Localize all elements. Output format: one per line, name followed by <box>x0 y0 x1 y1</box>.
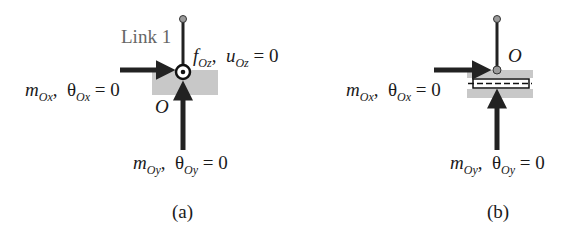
angle-subscript: Ox <box>397 90 411 104</box>
ground-band-bottom <box>467 89 533 98</box>
angle-subscript: Oy <box>501 163 515 177</box>
angle-subscript: Oy <box>184 163 198 177</box>
equals-zero: = 0 <box>203 152 228 173</box>
origin-text: O <box>508 45 522 66</box>
equals-zero: = 0 <box>95 79 120 100</box>
displacement-subscript: Oz <box>235 56 248 70</box>
separator: , <box>161 152 166 173</box>
moment-x-label: mOx, θOx = 0 <box>25 80 120 103</box>
link-1-label: Link 1 <box>121 27 171 46</box>
angle-subscript: Ox <box>76 90 90 104</box>
angle-symbol: θ <box>67 79 76 100</box>
caption-b-text: (b) <box>487 201 509 222</box>
moment-symbol: m <box>346 79 360 100</box>
moment-y-label: mOy, θOy = 0 <box>133 153 228 176</box>
angle-symbol: θ <box>388 79 397 100</box>
moment-y-label: mOy, θOy = 0 <box>450 153 545 176</box>
moment-x-label: mOx, θOx = 0 <box>346 80 441 103</box>
force-subscript: Oz <box>198 56 211 70</box>
moment-symbol: m <box>450 152 464 173</box>
link-end-joint-icon <box>494 16 501 23</box>
separator: , <box>53 79 58 100</box>
caption-b: (b) <box>487 202 509 221</box>
displacement-symbol: u <box>226 45 236 66</box>
force-z-label: fOz, uOz = 0 <box>193 46 278 69</box>
origin-label: O <box>155 97 169 116</box>
separator: , <box>478 152 483 173</box>
moment-symbol: m <box>133 152 147 173</box>
caption-a: (a) <box>172 202 193 221</box>
moment-subscript: Ox <box>39 90 53 104</box>
link-end-joint-icon <box>180 16 187 23</box>
angle-symbol: θ <box>492 152 501 173</box>
origin-text: O <box>155 96 169 117</box>
equals-zero: = 0 <box>416 79 441 100</box>
moment-subscript: Oy <box>147 163 161 177</box>
link-1-text: Link 1 <box>121 26 171 47</box>
force-dot-icon <box>181 70 186 75</box>
equals-zero: = 0 <box>253 45 278 66</box>
moment-subscript: Ox <box>360 90 374 104</box>
angle-symbol: θ <box>175 152 184 173</box>
origin-joint-icon <box>493 66 501 74</box>
panel-b-figure <box>434 16 533 151</box>
separator: , <box>212 45 217 66</box>
equals-zero: = 0 <box>520 152 545 173</box>
origin-label: O <box>508 46 522 65</box>
moment-subscript: Oy <box>464 163 478 177</box>
separator: , <box>374 79 379 100</box>
caption-a-text: (a) <box>172 201 193 222</box>
moment-symbol: m <box>25 79 39 100</box>
